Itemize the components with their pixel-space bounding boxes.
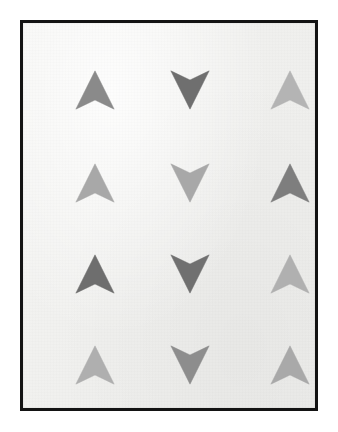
arrow-glyph	[74, 70, 116, 110]
arrow-up-icon	[74, 163, 116, 203]
arrow-up-icon	[74, 70, 116, 110]
arrow-up-icon	[269, 345, 311, 385]
arrow-up-icon	[74, 345, 116, 385]
arrow-glyph	[269, 163, 311, 203]
arrow-up-icon	[74, 254, 116, 294]
arrow-down-icon	[169, 345, 211, 385]
arrow-down-icon	[169, 163, 211, 203]
arrow-up-icon	[269, 70, 311, 110]
arrow-glyph	[269, 70, 311, 110]
arrow-grid	[23, 23, 315, 408]
arrow-glyph	[169, 70, 211, 110]
arrow-glyph	[169, 254, 211, 294]
arrow-glyph	[269, 345, 311, 385]
arrow-glyph	[74, 345, 116, 385]
arrow-down-icon	[169, 254, 211, 294]
arrow-up-icon	[269, 163, 311, 203]
arrow-glyph	[269, 254, 311, 294]
arrow-glyph	[169, 345, 211, 385]
arrow-up-icon	[269, 254, 311, 294]
poster-root	[0, 0, 338, 432]
arrow-down-icon	[169, 70, 211, 110]
arrow-glyph	[169, 163, 211, 203]
arrow-glyph	[74, 163, 116, 203]
arrow-glyph	[74, 254, 116, 294]
poster-frame	[20, 20, 318, 411]
